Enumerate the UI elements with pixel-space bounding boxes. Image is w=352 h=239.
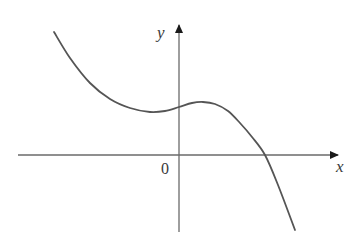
y-axis-label: y xyxy=(155,23,165,42)
function-graph: y x 0 xyxy=(0,0,352,239)
function-curve xyxy=(54,32,295,230)
origin-label: 0 xyxy=(161,160,169,177)
x-axis-label: x xyxy=(335,157,344,176)
